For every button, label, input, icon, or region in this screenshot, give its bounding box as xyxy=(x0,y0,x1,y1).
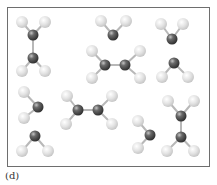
hydrogen-atom xyxy=(132,142,144,154)
heavy-atom xyxy=(28,53,39,64)
hydrogen-atom xyxy=(16,16,28,28)
hydrogen-atom xyxy=(162,95,174,107)
hydrogen-atom xyxy=(134,72,146,84)
molecule-water-top-right xyxy=(155,18,189,45)
hydrogen-atom xyxy=(182,71,194,83)
hydrogen-atom xyxy=(106,118,118,130)
molecular-diagram: (d) xyxy=(0,0,217,185)
heavy-atom xyxy=(73,105,84,116)
hydrogen-atom xyxy=(134,45,146,57)
hydrogen-atom xyxy=(155,18,167,30)
hydrogen-atom xyxy=(16,65,28,77)
heavy-atom xyxy=(28,30,39,41)
hydrogen-atom xyxy=(42,145,54,157)
heavy-atom xyxy=(167,34,178,45)
hydrogen-atom xyxy=(18,86,30,98)
hydrogen-atom xyxy=(188,145,200,157)
heavy-atom xyxy=(120,60,131,71)
hydrogen-atom xyxy=(61,90,73,102)
hydrogen-atom xyxy=(177,18,189,30)
molecules-canvas xyxy=(0,0,217,185)
heavy-atom xyxy=(33,102,44,113)
hydrogen-atom xyxy=(156,71,168,83)
heavy-atom xyxy=(145,130,156,141)
molecule-water-top-middle xyxy=(95,15,132,41)
hydrogen-atom xyxy=(188,95,200,107)
hydrogen-atom xyxy=(132,115,144,127)
molecule-water-left-middle xyxy=(18,86,44,124)
molecule-water-bottom-left xyxy=(16,131,54,158)
hydrogen-atom xyxy=(16,145,28,157)
hydrogen-atom xyxy=(60,118,72,130)
hydrogen-atom xyxy=(18,112,30,124)
heavy-atom xyxy=(176,111,187,122)
heavy-atom xyxy=(108,30,119,41)
molecule-water-right-middle xyxy=(156,58,194,84)
hydrogen-atom xyxy=(86,45,98,57)
hydrogen-atom xyxy=(120,15,132,27)
heavy-atom xyxy=(93,105,104,116)
hydrogen-atom xyxy=(86,72,98,84)
hydrogen-atom xyxy=(95,15,107,27)
figure-label: (d) xyxy=(5,170,19,182)
hydrogen-atom xyxy=(39,16,51,28)
heavy-atom xyxy=(169,58,180,69)
hydrogen-atom xyxy=(161,145,173,157)
hydrogen-atom xyxy=(39,65,51,77)
heavy-atom xyxy=(100,60,111,71)
heavy-atom xyxy=(30,131,41,142)
hydrogen-atom xyxy=(106,90,118,102)
atoms-layer xyxy=(16,15,200,157)
molecule-water-bottom-right xyxy=(132,115,156,154)
heavy-atom xyxy=(176,132,187,143)
